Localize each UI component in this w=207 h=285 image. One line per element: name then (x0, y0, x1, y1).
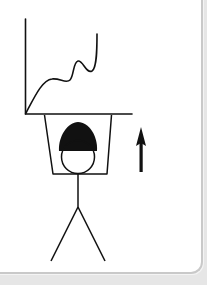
left-leg (51, 207, 78, 261)
up-arrow-icon (136, 127, 146, 172)
stick-figure (51, 122, 105, 261)
lifting-growth-diagram (0, 0, 207, 285)
chart-curve (26, 34, 97, 113)
right-leg (78, 207, 105, 261)
growth-chart (26, 19, 133, 114)
